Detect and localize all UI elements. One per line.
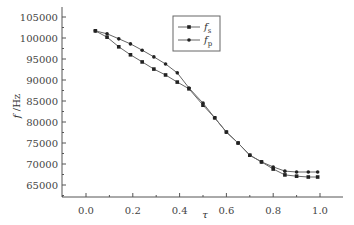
data-point <box>164 73 168 77</box>
y-tick-label: 65000 <box>26 180 58 191</box>
y-tick-label: 90000 <box>26 75 58 86</box>
legend-box <box>173 16 220 51</box>
y-axis-title: f /Hz <box>11 94 22 119</box>
data-point <box>187 86 191 90</box>
data-point <box>271 165 275 169</box>
data-point <box>175 71 179 75</box>
data-point <box>316 170 320 174</box>
y-tick-label: 105000 <box>20 12 58 23</box>
series-line <box>95 31 317 172</box>
line-chart: 0.00.20.40.60.81.06500070000750008000085… <box>0 0 354 225</box>
y-tick-label: 80000 <box>26 117 58 128</box>
x-tick-label: 1.0 <box>312 205 328 216</box>
x-tick-label: 0.4 <box>172 205 188 216</box>
data-point <box>307 170 311 174</box>
data-point <box>94 29 98 33</box>
data-point <box>164 62 168 66</box>
x-tick-label: 0.0 <box>78 205 94 216</box>
data-point <box>248 153 252 157</box>
data-point <box>105 35 109 39</box>
data-point <box>140 60 144 64</box>
data-point <box>225 130 229 134</box>
legend-marker-dot-icon <box>187 38 191 42</box>
data-point <box>295 170 299 174</box>
data-point <box>152 55 156 59</box>
data-point <box>140 48 144 52</box>
data-point <box>129 42 133 46</box>
series-f-s <box>94 29 320 179</box>
legend: fsfp <box>173 16 220 51</box>
data-point <box>295 174 299 178</box>
data-point <box>105 32 109 36</box>
y-tick-label: 85000 <box>26 96 58 107</box>
series-group <box>94 29 320 179</box>
y-tick-label: 75000 <box>26 138 58 149</box>
legend-marker-square-icon <box>187 25 191 29</box>
data-point <box>307 175 311 179</box>
data-point <box>117 37 121 41</box>
data-point <box>152 67 156 71</box>
data-point <box>260 160 264 164</box>
y-tick-label: 70000 <box>26 159 58 170</box>
data-point <box>283 169 287 173</box>
x-tick-label: 0.8 <box>265 205 281 216</box>
x-tick-label: 0.6 <box>218 205 234 216</box>
data-point <box>201 101 205 105</box>
data-point <box>236 141 240 145</box>
data-point <box>213 116 217 120</box>
y-tick-label: 100000 <box>20 33 58 44</box>
data-point <box>117 45 121 49</box>
data-point <box>283 173 287 177</box>
data-point <box>175 80 179 84</box>
x-axis-title: τ <box>202 209 208 220</box>
x-tick-label: 0.2 <box>125 205 141 216</box>
data-point <box>316 175 320 179</box>
series-line <box>95 31 317 177</box>
y-tick-label: 95000 <box>26 54 58 65</box>
data-point <box>129 53 133 57</box>
